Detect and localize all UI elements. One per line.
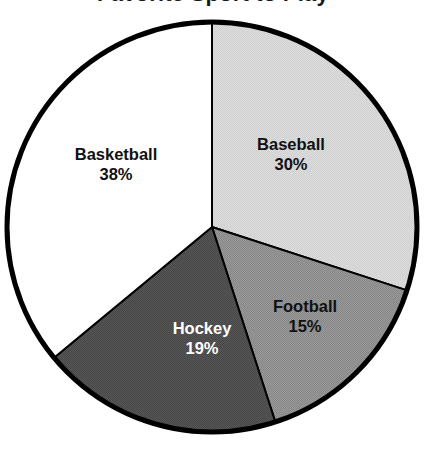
pie-chart-svg xyxy=(0,0,426,453)
pie-chart-figure: Favorite Sport to Play Basketball 38 xyxy=(0,0,426,453)
